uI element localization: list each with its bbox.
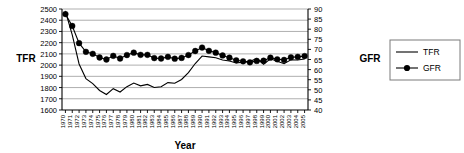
left-axis-title: TFR bbox=[16, 53, 36, 64]
x-tick-label-year: 1975 bbox=[95, 114, 101, 128]
x-tick-label-year: 1994 bbox=[224, 114, 230, 128]
legend: TFR GFR bbox=[390, 40, 460, 80]
left-tick-label: 2400 bbox=[40, 16, 57, 25]
legend-label-tfr: TFR bbox=[423, 47, 440, 57]
x-tick-label-year: 1980 bbox=[129, 114, 135, 128]
right-tick-label: 80 bbox=[314, 25, 322, 34]
legend-swatch-gfr-marker bbox=[404, 65, 410, 71]
x-tick-label-year: 1992 bbox=[211, 114, 217, 128]
right-tick-label: 75 bbox=[314, 35, 322, 44]
left-tick-label: 2500 bbox=[40, 5, 57, 14]
series-marker-gfr bbox=[158, 56, 164, 62]
series-marker-gfr bbox=[261, 58, 267, 64]
right-tick-label: 60 bbox=[314, 66, 322, 75]
series-marker-gfr bbox=[213, 50, 219, 56]
left-tick-label: 2200 bbox=[40, 39, 57, 48]
series-marker-gfr bbox=[206, 48, 212, 54]
x-tick-label-year: 1970 bbox=[60, 114, 66, 128]
x-tick-label-year: 1991 bbox=[204, 114, 210, 128]
series-marker-gfr bbox=[268, 55, 274, 61]
series-marker-gfr bbox=[90, 51, 96, 57]
x-tick-label-year: 1973 bbox=[81, 114, 87, 128]
series-marker-gfr bbox=[179, 55, 185, 61]
left-tick-label: 1700 bbox=[40, 95, 57, 104]
right-tick-label: 65 bbox=[314, 56, 322, 65]
x-tick-label-year: 2000 bbox=[265, 114, 271, 128]
x-tick-label-year: 1995 bbox=[231, 114, 237, 128]
x-tick-label-year: 1999 bbox=[259, 114, 265, 128]
series-marker-gfr bbox=[117, 56, 123, 62]
series-marker-gfr bbox=[145, 52, 151, 58]
left-tick-label: 2000 bbox=[40, 61, 57, 70]
right-tick-label: 55 bbox=[314, 76, 322, 85]
series-marker-gfr bbox=[138, 52, 144, 58]
left-tick-label: 1600 bbox=[40, 106, 57, 115]
series-marker-gfr bbox=[165, 54, 171, 60]
series-marker-gfr bbox=[63, 11, 69, 17]
series-marker-gfr bbox=[227, 55, 233, 61]
right-tick-label: 70 bbox=[314, 45, 322, 54]
tfr-gfr-dual-axis-chart: TFR GFR Year 250024002300220021002000190… bbox=[0, 0, 464, 153]
x-tick-label-year: 1998 bbox=[252, 114, 258, 128]
left-tick-label: 1800 bbox=[40, 84, 57, 93]
x-tick-label-year: 2004 bbox=[293, 114, 299, 128]
x-tick-label-year: 1971 bbox=[67, 114, 73, 128]
series-marker-gfr bbox=[254, 58, 260, 64]
series-marker-gfr bbox=[281, 57, 287, 63]
x-tick-label-year: 1984 bbox=[156, 114, 162, 128]
legend-label-gfr: GFR bbox=[423, 63, 441, 73]
x-tick-label-year: 1987 bbox=[177, 114, 183, 128]
x-tick-label-year: 1978 bbox=[115, 114, 121, 128]
x-tick-label-year: 2002 bbox=[279, 114, 285, 128]
right-tick-label: 90 bbox=[314, 5, 322, 14]
x-tick-label-year: 2001 bbox=[272, 114, 278, 128]
x-tick-label-year: 2005 bbox=[300, 114, 306, 128]
x-tick-label-year: 1993 bbox=[218, 114, 224, 128]
series-marker-gfr bbox=[247, 59, 253, 65]
x-tick-label-year: 1986 bbox=[170, 114, 176, 128]
series-marker-gfr bbox=[302, 53, 308, 59]
left-tick-label: 1900 bbox=[40, 72, 57, 81]
x-tick-label-year: 2003 bbox=[286, 114, 292, 128]
series-marker-gfr bbox=[131, 50, 137, 56]
x-tick-label-year: 1972 bbox=[74, 114, 80, 128]
right-tick-label: 45 bbox=[314, 96, 322, 105]
x-tick-label-year: 1976 bbox=[101, 114, 107, 128]
series-marker-gfr bbox=[288, 54, 294, 60]
series-marker-gfr bbox=[220, 53, 226, 59]
series-marker-gfr bbox=[124, 52, 130, 58]
series-marker-gfr bbox=[199, 45, 205, 51]
series-marker-gfr bbox=[76, 40, 82, 46]
left-tick-label: 2100 bbox=[40, 50, 57, 59]
series-marker-gfr bbox=[192, 48, 198, 54]
x-axis-title: Year bbox=[174, 140, 195, 151]
series-marker-gfr bbox=[172, 56, 178, 62]
x-tick-label-year: 1983 bbox=[149, 114, 155, 128]
x-tick-label-year: 1982 bbox=[142, 114, 148, 128]
series-marker-gfr bbox=[233, 57, 239, 63]
series-marker-gfr bbox=[69, 23, 75, 29]
legend-box bbox=[390, 40, 460, 80]
series-marker-gfr bbox=[97, 55, 103, 61]
series-line-tfr bbox=[65, 11, 304, 94]
series-marker-gfr bbox=[295, 54, 301, 60]
series-marker-gfr bbox=[186, 52, 192, 58]
x-tick-label-year: 1988 bbox=[183, 114, 189, 128]
right-axis-title: GFR bbox=[359, 53, 381, 64]
right-tick-label: 50 bbox=[314, 86, 322, 95]
x-tick-label-year: 1981 bbox=[136, 114, 142, 128]
series-marker-gfr bbox=[104, 57, 110, 63]
x-tick-label-year: 1979 bbox=[122, 114, 128, 128]
x-tick-label-year: 1997 bbox=[245, 114, 251, 128]
series-marker-gfr bbox=[110, 53, 116, 59]
x-tick-label-year: 1996 bbox=[238, 114, 244, 128]
x-tick-label-year: 1989 bbox=[190, 114, 196, 128]
right-tick-label: 85 bbox=[314, 15, 322, 24]
left-tick-label: 2300 bbox=[40, 27, 57, 36]
series-marker-gfr bbox=[274, 56, 280, 62]
x-tick-label-year: 1990 bbox=[197, 114, 203, 128]
series-marker-gfr bbox=[240, 58, 246, 64]
x-tick-label-year: 1977 bbox=[108, 114, 114, 128]
series-marker-gfr bbox=[83, 49, 89, 55]
right-tick-label: 40 bbox=[314, 106, 322, 115]
